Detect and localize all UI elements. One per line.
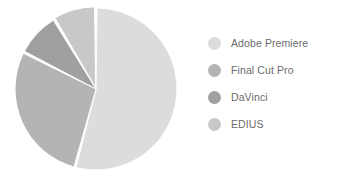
legend-item-edius[interactable]: EDIUS	[208, 117, 340, 131]
legend-swatch-icon	[208, 37, 221, 50]
legend-swatch-icon	[208, 118, 221, 131]
legend-item-final-cut-pro[interactable]: Final Cut Pro	[208, 63, 340, 77]
legend-item-label: DaVinci	[231, 91, 268, 104]
pie-plot-area	[0, 0, 200, 176]
legend-item-label: EDIUS	[231, 118, 264, 131]
legend-swatch-icon	[208, 64, 221, 77]
legend-item-label: Adobe Premiere	[231, 37, 308, 50]
legend-item-adobe-premiere[interactable]: Adobe Premiere	[208, 36, 340, 50]
legend: Adobe Premiere Final Cut Pro DaVinci EDI…	[208, 36, 340, 131]
legend-item-davinci[interactable]: DaVinci	[208, 90, 340, 104]
legend-item-label: Final Cut Pro	[231, 64, 294, 77]
pie-svg	[0, 0, 200, 176]
legend-swatch-icon	[208, 91, 221, 104]
pie-slice-group	[15, 7, 177, 170]
pie-chart-figure: Adobe Premiere Final Cut Pro DaVinci EDI…	[0, 0, 340, 176]
